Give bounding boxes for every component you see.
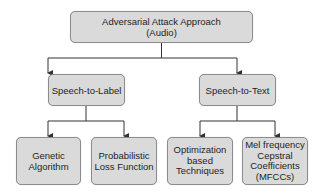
node-speech-to-text-label: Speech-to-Text bbox=[206, 85, 270, 96]
node-genetic-algorithm-label: Genetic Algorithm bbox=[28, 150, 68, 172]
edge-root-to-speech-to-text bbox=[162, 58, 238, 73]
edge-root-to-speech-to-label bbox=[48, 43, 162, 73]
node-root: Adversarial Attack Approach (Audio) bbox=[70, 11, 253, 43]
edge-speech-to-text-to-optimization bbox=[200, 106, 237, 136]
node-probabilistic-loss-function: Probabilistic Loss Function bbox=[91, 137, 157, 185]
node-speech-to-label-label: Speech-to-Label bbox=[52, 85, 122, 96]
diagram-canvas: Adversarial Attack Approach (Audio) Spee… bbox=[0, 0, 324, 195]
node-genetic-algorithm: Genetic Algorithm bbox=[16, 137, 81, 185]
node-optimization-based-techniques: Optimization based Techniques bbox=[167, 137, 233, 185]
node-speech-to-label: Speech-to-Label bbox=[48, 74, 125, 106]
node-speech-to-text: Speech-to-Text bbox=[199, 74, 276, 106]
edge-speech-to-text-to-mfcc bbox=[237, 121, 275, 136]
node-probabilistic-loss-function-label: Probabilistic Loss Function bbox=[94, 150, 153, 172]
edge-speech-to-label-to-genetic-algorithm bbox=[48, 106, 86, 136]
edge-speech-to-label-to-probabilistic-loss bbox=[86, 121, 124, 136]
node-mfcc-label: Mel frequency Cepstral Coefficients (MFC… bbox=[245, 140, 305, 182]
node-root-label: Adversarial Attack Approach (Audio) bbox=[102, 16, 221, 38]
node-mfcc: Mel frequency Cepstral Coefficients (MFC… bbox=[242, 137, 308, 185]
node-optimization-based-techniques-label: Optimization based Techniques bbox=[174, 145, 227, 177]
